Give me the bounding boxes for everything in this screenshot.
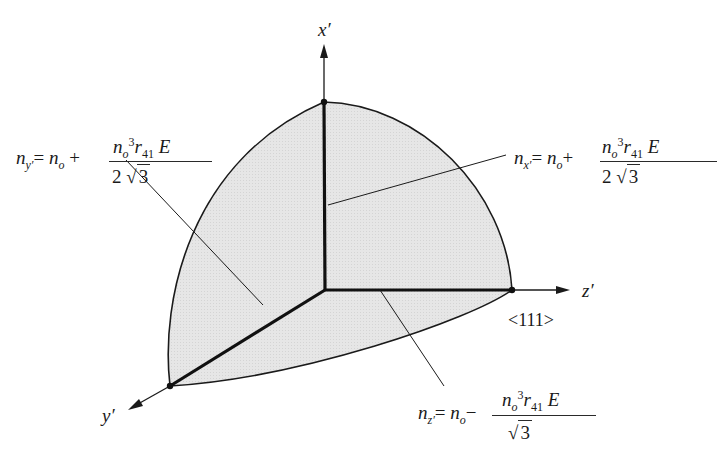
index-ellipsoid-octant <box>0 0 721 468</box>
x-axis-arrowhead <box>320 44 328 58</box>
ny-num-E: E <box>159 136 171 157</box>
nx-num-n-sub: o <box>612 147 618 161</box>
nz-op: − <box>466 402 477 423</box>
ny-den-coef: 2 <box>112 166 122 187</box>
vertex-y <box>167 383 173 389</box>
nz-lhs-var: n <box>418 402 428 423</box>
nx-eq: = <box>531 147 542 168</box>
equation-nx: nx′= no+ no3r41 E 2 √3 <box>514 136 719 196</box>
ny-base: n <box>49 147 59 168</box>
nz-num-E: E <box>548 389 560 410</box>
nz-sqrt: √3 <box>508 423 532 442</box>
vertex-x <box>321 99 327 105</box>
ny-base-sub: o <box>58 158 64 172</box>
equation-ny: ny′= no + no3r41 E 2 √3 <box>16 136 216 196</box>
nx-num-r-sub: 41 <box>631 147 643 161</box>
nz-num-r-sub: 41 <box>531 400 543 414</box>
nx-op: + <box>562 147 573 168</box>
nx-sqrt: √3 <box>616 167 640 186</box>
nz-num-r: r <box>524 389 531 410</box>
equation-nz: nz′= no− no3r41 E √3 <box>418 385 598 455</box>
nx-num-r: r <box>624 136 631 157</box>
y-axis-arrowhead <box>128 399 143 410</box>
nx-num-n: n <box>602 136 612 157</box>
ny-fraction-bar <box>109 161 212 162</box>
z-axis-label: z′ <box>582 281 594 300</box>
x-axis-label: x′ <box>318 20 331 39</box>
ny-sqrt: √3 <box>126 167 150 186</box>
nz-num-n-sub: o <box>512 400 518 414</box>
z-axis-arrowhead <box>556 286 570 294</box>
ny-num-n: n <box>113 136 123 157</box>
ny-lhs-var: n <box>16 147 26 168</box>
nz-base: n <box>450 402 460 423</box>
ny-op: + <box>69 147 80 168</box>
vertex-z <box>509 287 515 293</box>
nz-fraction-bar <box>492 415 596 416</box>
nz-eq: = <box>435 402 446 423</box>
nz-lhs-sub: z′ <box>428 413 435 427</box>
nx-base: n <box>547 147 557 168</box>
nz-num-n: n <box>502 389 512 410</box>
direction-111-label: <111> <box>508 311 554 329</box>
nx-num-E: E <box>648 136 660 157</box>
ny-eq: = <box>33 147 44 168</box>
y-axis-label: y′ <box>102 406 115 425</box>
ny-num-r: r <box>135 136 142 157</box>
nx-lhs-var: n <box>514 147 524 168</box>
ellipsoid-surface <box>168 102 512 386</box>
nx-den-coef: 2 <box>602 166 612 187</box>
y-axis-line <box>138 386 170 404</box>
ny-num-r-sub: 41 <box>142 147 154 161</box>
ny-num-n-sub: o <box>123 147 129 161</box>
semi-axis-x <box>324 102 325 290</box>
nx-fraction-bar <box>600 161 717 162</box>
